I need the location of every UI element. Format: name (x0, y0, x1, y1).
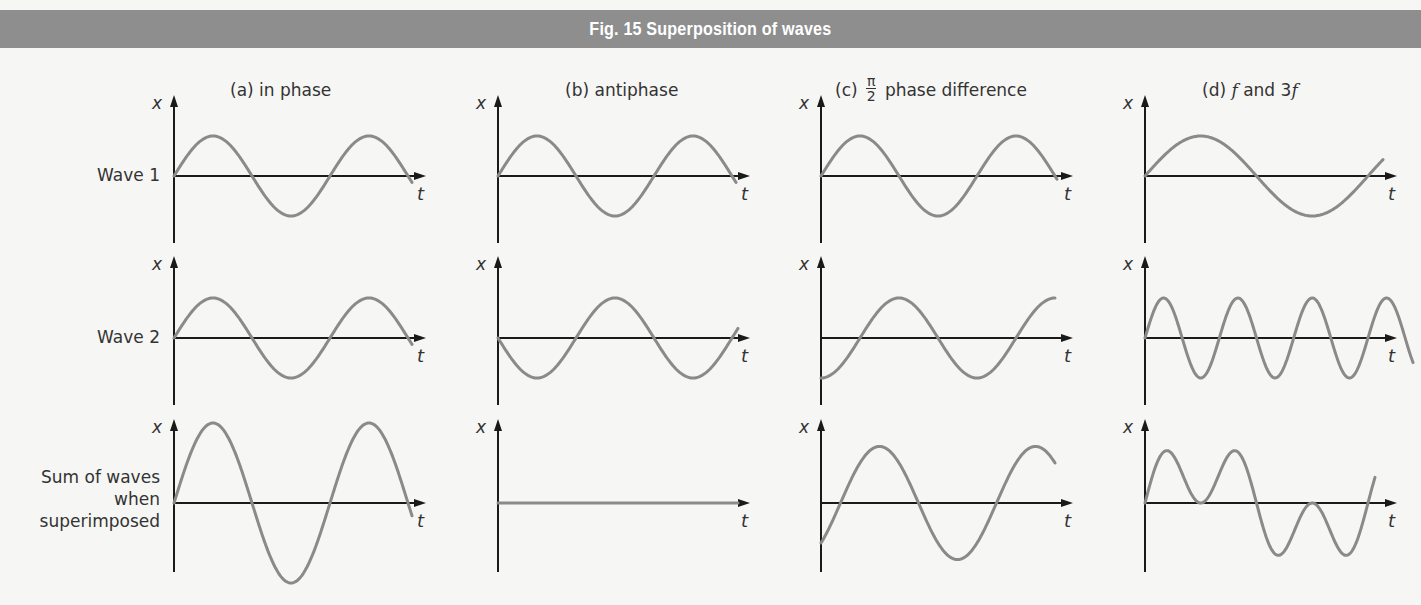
panel-c-wave2-t-label: t (1064, 345, 1072, 366)
panel-b-wave2-t-label: t (741, 345, 749, 366)
panel-a-sum-t-label: t (417, 510, 425, 531)
panel-b-wave1-x-label: x (475, 93, 487, 113)
panel-b-wave1-t-axis-arrow-icon (738, 172, 750, 180)
panel-d-wave1-t-label: t (1388, 183, 1396, 204)
panel-d-wave2-x-label: x (1122, 254, 1134, 274)
panel-d-wave2-t-label: t (1388, 345, 1396, 366)
panel-d-sum-x-axis-arrow-icon (1141, 419, 1149, 431)
panel-d-sum-x-label: x (1122, 417, 1134, 437)
panel-d-sum-t-axis-arrow-icon (1385, 499, 1397, 507)
panel-b-wave1-x-axis-arrow-icon (494, 95, 502, 107)
panel-c-wave2-x-axis-arrow-icon (817, 256, 825, 268)
panel-d-wave1-t-axis-arrow-icon (1385, 172, 1397, 180)
panel-c-wave2-t-axis-arrow-icon (1061, 334, 1073, 342)
panel-b-sum-x-label: x (475, 417, 487, 437)
panel-c-sum-x-axis-arrow-icon (817, 419, 825, 431)
panel-b-wave2-x-label: x (475, 254, 487, 274)
wave-diagram: xtxtxtxtxtxtxtxtxtxtxtxt (0, 0, 1421, 605)
panel-c-sum-t-label: t (1064, 510, 1072, 531)
panel-b-wave2-x-axis-arrow-icon (494, 256, 502, 268)
panel-b-sum-t-axis-arrow-icon (738, 499, 750, 507)
panel-a-wave1-x-label: x (151, 93, 163, 113)
panel-b-sum-x-axis-arrow-icon (494, 419, 502, 431)
panel-c-sum-x-label: x (798, 417, 810, 437)
panel-b-wave1-t-label: t (741, 183, 749, 204)
panel-c-wave1-x-label: x (798, 93, 810, 113)
panel-c-wave2-x-label: x (798, 254, 810, 274)
panel-a-wave1-x-axis-arrow-icon (170, 95, 178, 107)
panel-b-sum-t-label: t (741, 510, 749, 531)
panel-a-sum-x-label: x (151, 417, 163, 437)
panel-a-wave2-t-label: t (417, 345, 425, 366)
panel-a-sum-x-axis-arrow-icon (170, 419, 178, 431)
panel-c-wave1-t-axis-arrow-icon (1061, 172, 1073, 180)
panel-a-wave2-x-label: x (151, 254, 163, 274)
panel-d-wave1-x-axis-arrow-icon (1141, 95, 1149, 107)
panel-d-wave2-t-axis-arrow-icon (1385, 334, 1397, 342)
panel-d-sum-t-label: t (1388, 510, 1396, 531)
panel-d-wave1-x-label: x (1122, 93, 1134, 113)
panel-a-wave2-t-axis-arrow-icon (414, 334, 426, 342)
panel-a-wave2-x-axis-arrow-icon (170, 256, 178, 268)
panel-b-wave2-t-axis-arrow-icon (738, 334, 750, 342)
panel-a-sum-t-axis-arrow-icon (414, 499, 426, 507)
panel-c-wave1-t-label: t (1064, 183, 1072, 204)
panel-c-wave1-x-axis-arrow-icon (817, 95, 825, 107)
panel-a-wave1-t-label: t (417, 183, 425, 204)
panel-d-wave2-x-axis-arrow-icon (1141, 256, 1149, 268)
panel-a-wave1-t-axis-arrow-icon (414, 172, 426, 180)
panel-c-sum-t-axis-arrow-icon (1061, 499, 1073, 507)
